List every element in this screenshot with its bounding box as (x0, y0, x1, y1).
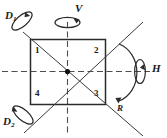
corner-label-3: 3 (94, 89, 99, 98)
axis-label-d2: D2 (3, 116, 14, 129)
axis-label-d1-letter: D (5, 9, 13, 21)
corner-label-1: 1 (35, 46, 40, 55)
figure-canvas (0, 0, 167, 138)
corner-label-2: 2 (94, 46, 99, 55)
symmetry-square-figure: D1 V H R D2 1 2 3 4 (0, 0, 167, 138)
rotation-label-r: R (117, 104, 123, 113)
axis-label-d1-sub: 1 (13, 15, 17, 23)
axis-label-d2-sub: 2 (11, 121, 15, 129)
diagonal-d2-line (24, 22, 143, 133)
corner-label-4: 4 (35, 89, 40, 98)
axis-label-h: H (152, 63, 161, 74)
rotation-arc-R (115, 44, 136, 103)
axis-label-d2-letter: D (3, 115, 11, 127)
center-point (65, 69, 70, 74)
axis-label-v: V (75, 3, 82, 14)
axis-label-d1: D1 (5, 10, 16, 23)
